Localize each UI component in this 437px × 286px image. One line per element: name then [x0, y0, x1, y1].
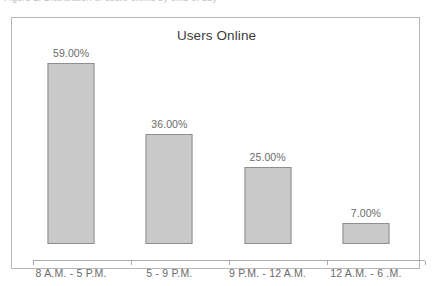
bar-group: 25.00%: [219, 48, 317, 244]
bar-value-label: 36.00%: [151, 118, 187, 130]
bar-value-label: 7.00%: [351, 207, 381, 219]
bar-group: 7.00%: [317, 48, 415, 244]
x-axis-category-labels: 8 A.M. - 5 P.M.5 - 9 P.M.9 P.M. - 12 A.M…: [22, 267, 415, 286]
x-axis-tick-label: 12 A.M. - 6 .M.: [317, 267, 415, 279]
bar[interactable]: [48, 63, 95, 244]
bar-value-label: 25.00%: [250, 151, 286, 163]
bar[interactable]: [146, 134, 193, 244]
x-axis-tick: [33, 261, 34, 265]
bar-value-label: 59.00%: [53, 47, 89, 59]
bar[interactable]: [244, 167, 291, 244]
x-axis-tick-label: 5 - 9 P.M.: [120, 267, 218, 279]
bar-group: 36.00%: [120, 48, 218, 244]
plot-area: 59.00%36.00%25.00%7.00%: [22, 48, 415, 244]
x-axis-tick-label: 8 A.M. - 5 P.M.: [22, 267, 120, 279]
bar-group: 59.00%: [22, 48, 120, 244]
chart-title: Users Online: [12, 28, 421, 43]
x-axis-tick: [131, 261, 132, 265]
figure-caption-cropped: Figure 2. Distribution of users online b…: [0, 0, 437, 9]
x-axis-tick: [229, 261, 230, 265]
x-axis-tick-label: 9 P.M. - 12 A.M.: [219, 267, 317, 279]
figure-caption-text: Figure 2. Distribution of users online b…: [0, 0, 217, 3]
x-axis-tick: [327, 261, 328, 265]
bar[interactable]: [342, 223, 389, 244]
chart-frame: Users Online 59.00%36.00%25.00%7.00% 8 A…: [11, 17, 420, 269]
x-axis-tick: [425, 261, 426, 265]
